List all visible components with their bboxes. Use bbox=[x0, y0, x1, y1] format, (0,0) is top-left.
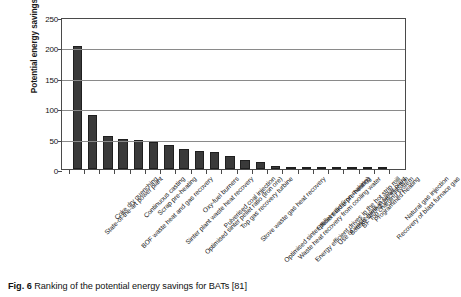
bar-chart: Potential energy savings, PJ 05010015020… bbox=[0, 4, 424, 266]
bar bbox=[134, 140, 143, 169]
y-axis-tick-label: 150 bbox=[36, 75, 58, 84]
bar bbox=[332, 167, 341, 169]
x-axis-tick-mark bbox=[328, 170, 329, 174]
bar bbox=[271, 166, 280, 169]
figure-caption: Fig. 6 Ranking of the potential energy s… bbox=[8, 281, 418, 291]
x-axis-tick-mark bbox=[145, 170, 146, 174]
x-axis-tick-mark bbox=[84, 170, 85, 174]
x-axis-tick-mark bbox=[160, 170, 161, 174]
bar bbox=[73, 46, 82, 169]
figure-number: Fig. 6 bbox=[8, 281, 32, 291]
bar bbox=[286, 167, 295, 169]
x-axis-tick-mark bbox=[175, 170, 176, 174]
y-axis-tick-label: 50 bbox=[36, 136, 58, 145]
plot-area bbox=[61, 18, 406, 170]
y-axis-tick-mark bbox=[58, 110, 62, 111]
x-axis-tick-mark bbox=[221, 170, 222, 174]
bar bbox=[118, 139, 127, 169]
x-axis-tick-mark bbox=[359, 170, 360, 174]
y-axis-tick-labels: 050100150200250 bbox=[36, 18, 58, 170]
gridline bbox=[62, 80, 405, 81]
x-axis-tick-mark bbox=[69, 170, 70, 174]
bar bbox=[149, 142, 158, 169]
x-axis-tick-mark bbox=[252, 170, 253, 174]
x-axis-tick-mark bbox=[114, 170, 115, 174]
bar bbox=[88, 115, 97, 169]
bar bbox=[302, 167, 311, 169]
bar bbox=[240, 160, 249, 169]
y-axis-tick-mark bbox=[58, 19, 62, 20]
bar-series bbox=[62, 19, 405, 169]
bar bbox=[225, 156, 234, 169]
bar bbox=[164, 145, 173, 169]
bar bbox=[256, 162, 265, 169]
x-axis-tick-mark bbox=[237, 170, 238, 174]
x-axis-tick-mark bbox=[99, 170, 100, 174]
y-axis-tick-mark bbox=[58, 141, 62, 142]
x-axis-tick-mark bbox=[191, 170, 192, 174]
y-axis-tick-label: 100 bbox=[36, 106, 58, 115]
gridline bbox=[62, 110, 405, 111]
x-axis-tick-mark bbox=[130, 170, 131, 174]
bar bbox=[179, 149, 188, 169]
x-axis-tick-mark bbox=[267, 170, 268, 174]
bar bbox=[195, 151, 204, 169]
figure-caption-body: Ranking of the potential energy savings … bbox=[34, 281, 247, 291]
y-axis-tick-label: 200 bbox=[36, 45, 58, 54]
x-axis-tick-mark bbox=[313, 170, 314, 174]
x-axis-tick-mark bbox=[389, 170, 390, 174]
bar bbox=[317, 167, 326, 169]
y-axis-tick-mark bbox=[58, 49, 62, 50]
y-axis-tick-label: 0 bbox=[36, 167, 58, 176]
bar bbox=[347, 167, 356, 169]
x-axis-tick-mark bbox=[374, 170, 375, 174]
gridline bbox=[62, 49, 405, 50]
bar bbox=[210, 152, 219, 169]
x-axis-tick-mark bbox=[282, 170, 283, 174]
gridline bbox=[62, 141, 405, 142]
x-axis-tick-mark bbox=[206, 170, 207, 174]
bar bbox=[363, 167, 372, 169]
x-axis-tick-mark bbox=[343, 170, 344, 174]
x-axis-tick-mark bbox=[298, 170, 299, 174]
y-axis-tick-label: 250 bbox=[36, 15, 58, 24]
bar bbox=[378, 167, 387, 169]
y-axis-tick-mark bbox=[58, 80, 62, 81]
x-axis-category-labels: State-of-the-art power plantCoke dry que… bbox=[61, 175, 406, 270]
